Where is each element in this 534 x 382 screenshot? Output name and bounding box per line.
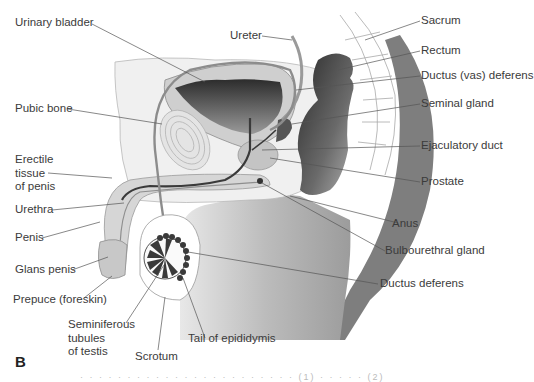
panel-letter: B: [15, 353, 26, 370]
label-tail-of-epididymis: Tail of epididymis: [188, 332, 276, 346]
label-sacrum: Sacrum: [421, 14, 461, 28]
label-anus: Anus: [392, 217, 418, 231]
label-erectile-line-2: tissue: [15, 167, 55, 181]
label-ureter: Ureter: [230, 29, 262, 43]
label-glans-penis: Glans penis: [15, 263, 76, 277]
label-seminiferous-line-3: of testis: [68, 345, 135, 359]
caption-fragment: · · · · · · · · · · · · · · · · · · · · …: [80, 372, 384, 382]
label-bulbourethral-gland: Bulbourethral gland: [385, 244, 485, 258]
label-penis: Penis: [15, 231, 44, 245]
label-scrotum: Scrotum: [135, 350, 178, 364]
label-seminiferous-tubules: Seminiferous tubules of testis: [68, 318, 135, 359]
label-seminal-gland: Seminal gland: [421, 97, 494, 111]
label-erectile-tissue: Erectile tissue of penis: [15, 153, 55, 194]
label-ductus-vas-deferens: Ductus (vas) deferens: [421, 69, 534, 83]
label-erectile-line-1: Erectile: [15, 153, 55, 167]
label-rectum: Rectum: [421, 44, 461, 58]
thigh-region: [180, 195, 350, 340]
label-prepuce: Prepuce (foreskin): [13, 293, 107, 307]
label-pubic-bone: Pubic bone: [15, 102, 73, 116]
label-seminiferous-line-1: Seminiferous: [68, 318, 135, 332]
label-urethra: Urethra: [15, 203, 53, 217]
label-ductus-deferens: Ductus deferens: [380, 277, 464, 291]
label-erectile-line-3: of penis: [15, 180, 55, 194]
label-prostate: Prostate: [421, 175, 464, 189]
label-ejaculatory-duct: Ejaculatory duct: [421, 139, 503, 153]
label-seminiferous-line-2: tubules: [68, 332, 135, 346]
label-urinary-bladder: Urinary bladder: [15, 16, 94, 30]
